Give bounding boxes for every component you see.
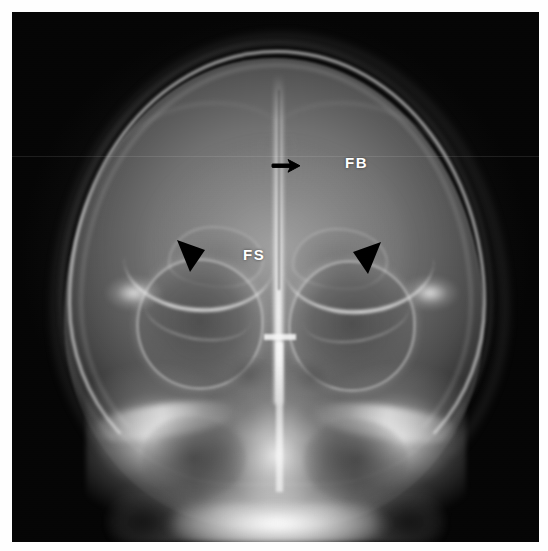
midline-arrow-icon [270, 152, 304, 180]
maxillary-antrum-left [142, 416, 246, 500]
label-frontal-bone: FB [345, 154, 368, 171]
crista-galli [264, 334, 296, 340]
zygomaticofrontal-suture-right [400, 270, 460, 316]
arrowhead-left-icon [170, 234, 210, 276]
figure-root: FB FS [0, 0, 548, 551]
maxillary-antrum-right [304, 418, 408, 502]
alveolar-ridge [162, 504, 394, 542]
arrowhead-right-icon [348, 236, 388, 278]
label-frontal-sinus: FS [243, 246, 265, 263]
metopic-suture-line [278, 90, 280, 290]
radiograph-image: FB FS [12, 12, 539, 542]
zygomaticofrontal-suture-left [104, 270, 164, 316]
